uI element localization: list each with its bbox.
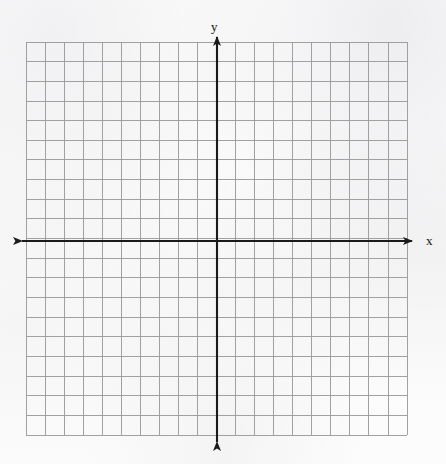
coordinate-grid-figure: y x (0, 0, 446, 464)
x-axis-label: x (426, 234, 433, 247)
y-axis-label: y (211, 20, 218, 33)
coordinate-plane-svg (0, 0, 446, 464)
